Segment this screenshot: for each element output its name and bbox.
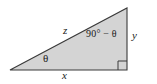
angle-complement-label: 90° − θ [86, 29, 117, 39]
angle-theta-label: θ [43, 53, 48, 64]
base-side-label: x [62, 70, 67, 81]
triangle-graphic [0, 0, 157, 84]
triangle-shape [10, 8, 127, 70]
vertical-side-label: y [132, 30, 137, 41]
hypotenuse-label: z [63, 25, 67, 36]
triangle-figure: z θ x 90° − θ y [0, 0, 157, 84]
